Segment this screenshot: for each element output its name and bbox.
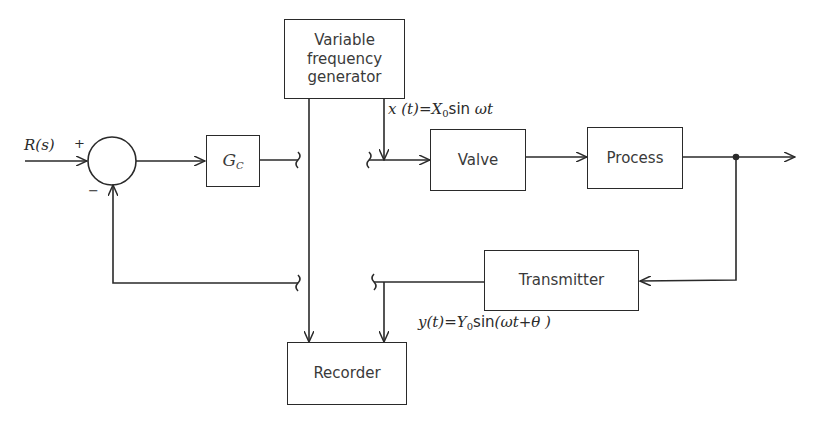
connection-lines (0, 0, 815, 427)
process-label: Process (607, 149, 664, 168)
generator-label-line: frequency (307, 50, 382, 69)
x-signal-label: x (t)=X0sin ωt (388, 100, 493, 119)
generator-label-line: generator (307, 68, 381, 87)
recorder-label: Recorder (313, 364, 380, 383)
block-diagram: GC Variable frequency generator Valve Pr… (0, 0, 815, 427)
y-signal-label: y(t)=Y0sin(ωt+θ ) (418, 313, 551, 332)
input-label: R(s) (24, 136, 55, 154)
valve-block: Valve (430, 129, 526, 191)
process-block: Process (587, 127, 683, 189)
transmitter-label: Transmitter (519, 271, 605, 290)
controller-label: GC (222, 150, 243, 173)
plus-sign: + (74, 136, 85, 151)
summing-junction (88, 137, 136, 185)
recorder-block: Recorder (287, 342, 407, 405)
generator-label-line: Variable (314, 31, 375, 50)
generator-block: Variable frequency generator (284, 19, 405, 99)
minus-sign: − (88, 183, 99, 198)
transmitter-block: Transmitter (484, 250, 639, 311)
valve-label: Valve (458, 151, 499, 170)
controller-block: GC (206, 135, 260, 187)
